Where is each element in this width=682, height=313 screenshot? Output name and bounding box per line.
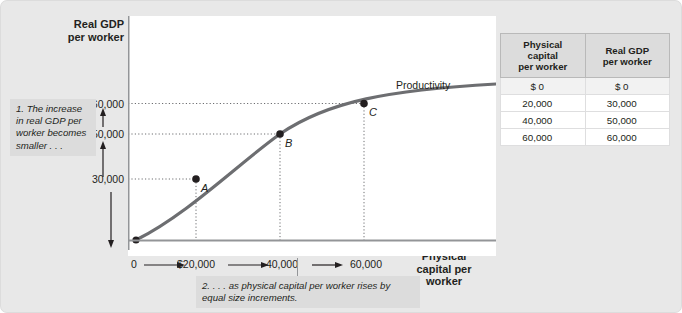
table-cell-gdp: 60,000 [585,129,670,146]
table-cell-gdp: 50,000 [585,112,670,129]
table-row: 60,000 60,000 [501,129,670,146]
data-table: Physical capital per worker Real GDP per… [500,33,670,146]
horizontal-guides [128,104,364,180]
vertical-guides [196,104,364,241]
callout-equal-increments: 2. . . . as physical capital per worker … [196,276,420,308]
plot-panel: A B C [128,16,496,256]
table-header-row: Physical capital per worker Real GDP per… [501,34,670,78]
table-cell-gdp: $ 0 [585,78,670,95]
table-body: $ 0 $ 0 20,000 30,000 40,000 50,000 60,0… [501,78,670,146]
table-head: Physical capital per worker Real GDP per… [501,34,670,78]
productivity-curve-label: Productivity [396,79,450,91]
table-row: 20,000 30,000 [501,95,670,112]
point-label-c: C [369,106,377,118]
table-cell-capital: 60,000 [501,129,586,146]
callout-increase-smaller: 1. The increase in real GDP per worker b… [10,99,96,156]
figure-container: Real GDP per worker Physical capital per… [0,0,682,313]
table-header-real-gdp: Real GDP per worker [585,34,670,78]
productivity-curve [136,84,496,240]
table-row: 40,000 50,000 [501,112,670,129]
y-increment-arrow-lower [103,190,119,252]
data-point-b[interactable] [276,130,284,138]
table-cell-capital: 20,000 [501,95,586,112]
data-point-a[interactable] [192,175,200,183]
table-header-physical-capital: Physical capital per worker [501,34,586,78]
plot-svg [128,16,496,256]
table-cell-capital: 40,000 [501,112,586,129]
data-point-c[interactable] [360,100,368,108]
table-cell-gdp: 30,000 [585,95,670,112]
table-cell-capital: $ 0 [501,78,586,95]
point-label-b: B [285,137,292,149]
x-increment-arrows [140,256,352,274]
point-label-a: A [201,182,208,194]
callout-2-connector [297,258,298,276]
y-axis-title: Real GDP per worker [48,18,124,43]
table-row: $ 0 $ 0 [501,78,670,95]
